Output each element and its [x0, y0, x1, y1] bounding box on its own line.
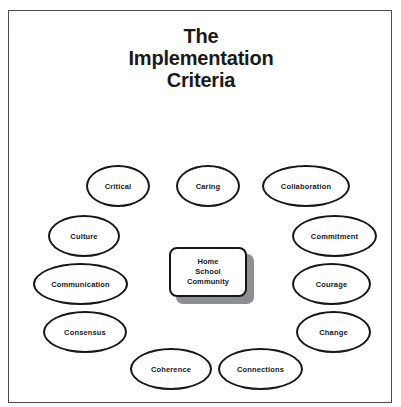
node-collaboration[interactable]: Collaboration — [262, 165, 350, 207]
node-consensus[interactable]: Consensus — [43, 311, 127, 353]
node-label: Change — [319, 328, 347, 337]
center-node[interactable]: Home School Community — [169, 247, 255, 305]
node-culture[interactable]: Culture — [48, 215, 120, 257]
node-commitment[interactable]: Commitment — [292, 215, 377, 257]
center-line-3: Community — [187, 277, 229, 287]
node-label: Coherence — [151, 365, 191, 374]
title-line-1: The — [49, 25, 353, 47]
node-label: Courage — [316, 280, 347, 289]
center-line-2: School — [195, 267, 221, 277]
node-communication[interactable]: Communication — [33, 263, 128, 305]
node-label: Caring — [196, 182, 221, 191]
node-label: Critical — [105, 182, 132, 191]
page-title: The Implementation Criteria — [49, 25, 353, 91]
node-courage[interactable]: Courage — [292, 263, 371, 305]
node-connections[interactable]: Connections — [218, 348, 303, 390]
slide-canvas: The Implementation Criteria Critical Car… — [0, 0, 401, 407]
node-label: Commitment — [311, 232, 358, 241]
slide-frame: The Implementation Criteria Critical Car… — [8, 10, 392, 403]
node-label: Communication — [51, 280, 110, 289]
node-critical[interactable]: Critical — [86, 165, 150, 207]
title-line-2: Implementation — [49, 47, 353, 69]
center-node-box[interactable]: Home School Community — [169, 247, 247, 297]
node-label: Culture — [70, 232, 97, 241]
node-label: Connections — [237, 365, 284, 374]
node-label: Consensus — [64, 328, 106, 337]
node-coherence[interactable]: Coherence — [130, 348, 212, 390]
title-line-3: Criteria — [49, 69, 353, 91]
node-change[interactable]: Change — [296, 311, 371, 353]
node-label: Collaboration — [281, 182, 331, 191]
node-caring[interactable]: Caring — [176, 165, 240, 207]
center-line-1: Home — [197, 257, 218, 267]
